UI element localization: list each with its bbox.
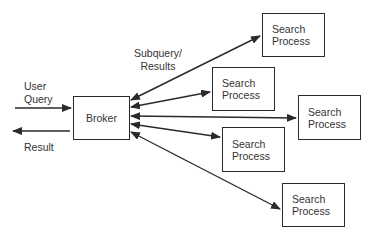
arrow-broker-sp4 [131, 124, 220, 137]
search-process-box-4: Search Process [222, 127, 285, 172]
search-process-label: Search Process [283, 193, 330, 217]
result-label: Result [24, 141, 54, 154]
search-process-label: Search Process [223, 138, 270, 162]
search-process-box-3: Search Process [298, 95, 361, 140]
search-process-label: Search Process [213, 77, 260, 101]
broker-label: Broker [74, 112, 129, 124]
search-process-box-2: Search Process [212, 67, 275, 111]
search-process-label: Search Process [263, 23, 310, 47]
search-process-box-5: Search Process [282, 183, 345, 227]
search-process-box-1: Search Process [262, 13, 325, 57]
search-process-label: Search Process [299, 106, 346, 130]
subquery-results-label: Subquery/ Results [134, 47, 182, 72]
user-query-label: User Query [24, 80, 53, 105]
broker-box: Broker [73, 96, 130, 140]
arrow-broker-sp3 [131, 116, 296, 118]
